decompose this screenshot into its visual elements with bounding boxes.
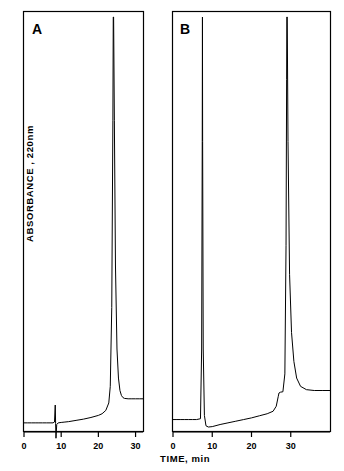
svg-text:0: 0 bbox=[21, 441, 26, 451]
panel-a-label: A bbox=[32, 21, 42, 37]
svg-text:20: 20 bbox=[93, 441, 103, 451]
panel-b-plot: 0102030 bbox=[172, 11, 331, 438]
panel-a-plot: 0102030 bbox=[23, 11, 144, 438]
panel-b: B 0102030 bbox=[172, 11, 331, 438]
panel-a-xticks: 0102030 bbox=[21, 432, 143, 451]
svg-text:10: 10 bbox=[56, 441, 66, 451]
chromatogram-figure: ABSORBANCE , 220nm TIME, min A 0102030 B… bbox=[0, 0, 344, 471]
panel-b-label: B bbox=[180, 21, 190, 37]
svg-text:30: 30 bbox=[286, 441, 296, 451]
svg-text:10: 10 bbox=[207, 441, 217, 451]
panel-a-frame bbox=[24, 12, 144, 432]
panel-b-xticks: 0102030 bbox=[170, 432, 330, 451]
svg-text:0: 0 bbox=[170, 441, 175, 451]
svg-text:20: 20 bbox=[246, 441, 256, 451]
panel-b-trace bbox=[173, 17, 330, 427]
x-axis-label: TIME, min bbox=[160, 453, 210, 464]
panel-a-trace bbox=[24, 17, 143, 438]
panel-b-frame bbox=[173, 12, 331, 432]
svg-text:30: 30 bbox=[131, 441, 141, 451]
panel-a: A 0102030 bbox=[23, 11, 144, 438]
